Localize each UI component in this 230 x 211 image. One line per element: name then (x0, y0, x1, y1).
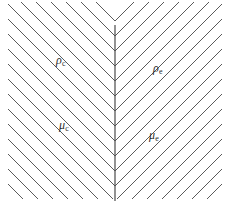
label-mu-c: μc (59, 119, 69, 133)
label-rho-c-symbol: ρ (56, 53, 62, 67)
label-rho-e: ρe (153, 62, 163, 76)
hatch-diagram-svg (0, 0, 230, 211)
figure-root: ρc ρe μc μe (0, 0, 230, 211)
label-mu-c-subscript: c (65, 124, 69, 133)
label-mu-e: μe (149, 129, 159, 143)
label-rho-c-subscript: c (62, 59, 66, 68)
label-mu-e-subscript: e (155, 134, 159, 143)
label-rho-e-symbol: ρ (153, 61, 159, 75)
label-rho-e-subscript: e (159, 67, 163, 76)
label-rho-c: ρc (56, 54, 66, 68)
